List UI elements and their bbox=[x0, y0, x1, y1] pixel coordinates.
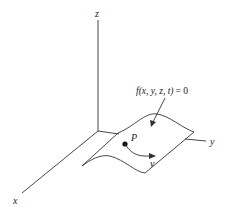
surface-pointer-arrowhead bbox=[150, 120, 156, 127]
velocity-arrow bbox=[125, 144, 150, 156]
y-axis-far bbox=[185, 139, 206, 141]
x-axis-label: x bbox=[12, 195, 18, 206]
y-axis-label: y bbox=[209, 136, 215, 147]
z-axis-label: z bbox=[94, 8, 99, 19]
surface-equation-rhs: = 0 bbox=[175, 86, 188, 96]
surface-pointer-arrow bbox=[153, 98, 165, 122]
velocity-label: v bbox=[150, 158, 155, 169]
y-axis-near bbox=[98, 131, 119, 134]
diagram-canvas: z x y f(x, y, z, t)= 0 P v bbox=[0, 0, 230, 213]
surface-equation-label: f(x, y, z, t)= 0 bbox=[136, 86, 188, 97]
surface bbox=[82, 114, 194, 173]
surface-equation-args: (x, y, z, t) bbox=[139, 86, 174, 97]
point-p-label: P bbox=[130, 132, 137, 143]
